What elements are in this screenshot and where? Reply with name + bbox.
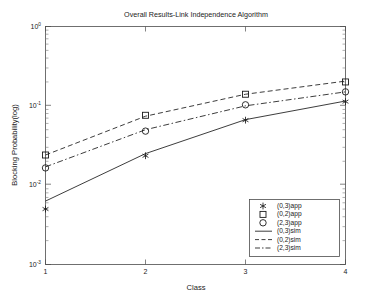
x-tick-label: 4 [344,268,348,275]
chart-title: Overall Results-Link Independence Algori… [124,10,268,19]
legend-label: (0,3)app [277,202,302,210]
legend[interactable]: (0,3)app(0,2)app(2,3)app(0,3)sim(0,2)sim… [250,200,340,257]
legend-label: (2,3)sim [277,244,301,252]
x-tick-label: 1 [44,268,48,275]
legend-label: (2,3)app [277,219,302,227]
figure-background [0,0,366,308]
legend-item-02app[interactable]: (0,2)app [260,210,302,218]
chart-figure: Overall Results-Link Independence Algori… [0,0,366,308]
y-axis-label: Blocking Probability(log) [10,104,19,186]
legend-label: (0,2)sim [277,236,301,244]
x-axis-label: Class [187,283,206,292]
x-tick-label: 2 [144,268,148,275]
legend-label: (0,2)app [277,210,302,218]
x-tick-label: 3 [244,268,248,275]
chart-svg: Overall Results-Link Independence Algori… [0,0,366,308]
legend-label: (0,3)sim [277,227,301,235]
